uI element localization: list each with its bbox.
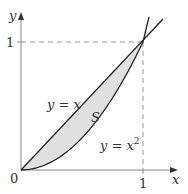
label-y-equals-x-squared-base: y = x [99,138,135,153]
origin-label: 0 [10,171,18,186]
x-axis-label: x [172,172,180,187]
region-diagram: y x 1 1 0 y = x S y = x2 [0,0,188,194]
region-label-s: S [91,110,100,125]
y-tick-label: 1 [6,35,14,50]
y-axis-label: y [8,8,17,23]
label-y-equals-x: y = x [46,97,82,112]
x-tick-label: 1 [139,176,147,191]
y-axis-arrow-icon [18,12,24,20]
label-y-equals-x-squared: y = x2 [99,136,140,153]
label-y-equals-x-squared-exponent: 2 [134,136,140,146]
